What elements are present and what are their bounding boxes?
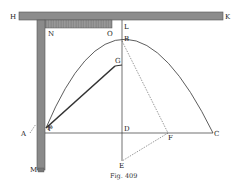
label-o: O bbox=[107, 30, 113, 38]
ruler-hk bbox=[19, 12, 223, 20]
square-arm-nm bbox=[37, 20, 45, 170]
label-a: A bbox=[20, 130, 27, 138]
ruler-hatched-strip bbox=[45, 20, 112, 28]
label-c: C bbox=[214, 130, 219, 138]
string-f-g bbox=[46, 66, 115, 128]
label-f-line: F bbox=[168, 134, 173, 142]
label-m: M bbox=[30, 166, 37, 174]
dashed-b-f bbox=[122, 41, 168, 133]
label-n: N bbox=[48, 30, 54, 38]
pin-g bbox=[115, 65, 122, 66]
parabola-curve bbox=[46, 39, 213, 133]
dashed-f-e bbox=[122, 133, 168, 161]
label-b: B bbox=[124, 35, 129, 43]
label-l: L bbox=[124, 23, 129, 31]
label-h: H bbox=[10, 13, 16, 21]
parabola-construction-diagram: H K N O L B G F A P D F C E M Fig. 409 bbox=[0, 0, 234, 191]
square-arm-foot bbox=[38, 168, 44, 172]
label-g: G bbox=[115, 57, 121, 65]
label-p: P bbox=[48, 125, 53, 133]
figure-caption: Fig. 409 bbox=[110, 172, 137, 180]
label-e: E bbox=[119, 162, 124, 170]
label-d: D bbox=[124, 125, 130, 133]
label-k: K bbox=[225, 13, 231, 21]
dashed-a-f bbox=[30, 124, 36, 133]
